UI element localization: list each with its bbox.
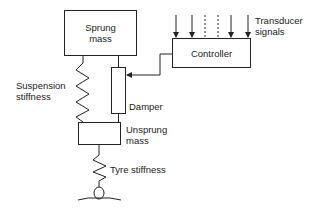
damper-body xyxy=(112,68,126,114)
transducer-signals-label: Transducer signals xyxy=(255,15,303,37)
suspension-line2: stiffness xyxy=(16,91,66,102)
control-signal-arrow xyxy=(127,54,172,75)
unsprung-mass-box xyxy=(79,123,121,145)
sprung-mass-line2: mass xyxy=(64,33,137,44)
suspension-line1: Suspension xyxy=(16,80,66,91)
unsprung-line2: mass xyxy=(126,135,167,146)
unsprung-line1: Unsprung xyxy=(126,124,167,135)
suspension-spring-icon xyxy=(76,55,89,122)
transducer-line2: signals xyxy=(255,26,303,37)
tyre-icon xyxy=(94,187,104,199)
unsprung-mass-label: Unsprung mass xyxy=(126,124,167,146)
tyre-stiffness-label: Tyre stiffness xyxy=(110,164,166,175)
damper-label: Damper xyxy=(129,101,163,112)
transducer-line1: Transducer xyxy=(255,15,303,26)
controller-label: Controller xyxy=(172,48,251,59)
sprung-mass-line1: Sprung xyxy=(64,22,137,33)
sprung-mass-label: Sprung mass xyxy=(64,22,137,44)
suspension-stiffness-label: Suspension stiffness xyxy=(16,80,66,102)
tyre-spring-icon xyxy=(93,145,106,187)
